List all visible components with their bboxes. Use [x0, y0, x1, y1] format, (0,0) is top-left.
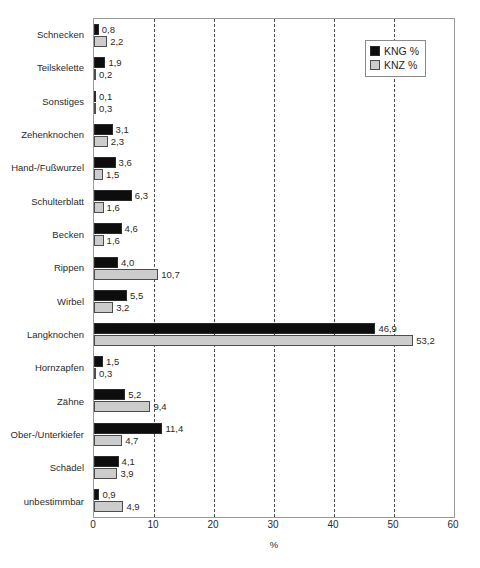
- x-tick-label-40: 40: [327, 519, 338, 530]
- bar: [94, 257, 118, 268]
- bar-line: 1,6: [94, 202, 454, 213]
- category-label: unbestimmbar: [24, 496, 84, 507]
- category-label: Schulterblatt: [31, 196, 84, 207]
- bar: [94, 91, 96, 102]
- bar: [94, 335, 413, 346]
- bar: [94, 157, 116, 168]
- category-label-cell: Schnecken: [0, 18, 89, 51]
- category-label-cell: Rippen: [0, 251, 89, 284]
- bar: [94, 269, 158, 280]
- legend: KNG %KNZ %: [365, 40, 426, 77]
- category-label: Ober-/Unterkiefer: [11, 429, 84, 440]
- bar-chart: SchneckenTeilskeletteSonstigesZehenknoch…: [0, 0, 480, 568]
- x-tick-label-30: 30: [267, 519, 278, 530]
- bar-line: 0,3: [94, 103, 454, 114]
- bar-line: 1,6: [94, 235, 454, 246]
- bar-value-label: 6,3: [135, 190, 148, 201]
- category-label-cell: Schädel: [0, 451, 89, 484]
- bar-group: 4,010,7: [94, 251, 454, 284]
- category-label-cell: Zähne: [0, 385, 89, 418]
- bar-value-label: 1,6: [107, 202, 120, 213]
- category-label-cell: Langknochen: [0, 318, 89, 351]
- category-label: Hornzapfen: [35, 362, 84, 373]
- bar-line: 3,1: [94, 124, 454, 135]
- category-label-cell: Teilskelette: [0, 51, 89, 84]
- bar-group: 4,13,9: [94, 451, 454, 484]
- bar: [94, 501, 123, 512]
- bar-value-label: 4,0: [121, 257, 134, 268]
- category-label-cell: Ober-/Unterkiefer: [0, 418, 89, 451]
- category-label-cell: Hornzapfen: [0, 351, 89, 384]
- category-label-cell: Sonstiges: [0, 85, 89, 118]
- category-label-cell: Hand-/Fußwurzel: [0, 151, 89, 184]
- x-tick-label-50: 50: [387, 519, 398, 530]
- bar-line: 3,9: [94, 468, 454, 479]
- bar-value-label: 0,3: [99, 103, 112, 114]
- x-axis-title: %: [93, 539, 455, 550]
- bar: [94, 136, 108, 147]
- bar-value-label: 3,1: [116, 124, 129, 135]
- bar: [94, 223, 122, 234]
- bar-value-label: 9,4: [153, 401, 166, 412]
- category-label: Zehenknochen: [21, 129, 84, 140]
- plot-area: 0,82,21,90,20,10,33,12,33,61,56,31,64,61…: [93, 18, 455, 518]
- bar-rows: 0,82,21,90,20,10,33,12,33,61,56,31,64,61…: [94, 19, 454, 517]
- bar-group: 3,12,3: [94, 119, 454, 152]
- x-tick-label-0: 0: [90, 519, 96, 530]
- x-tick-label-60: 60: [447, 519, 458, 530]
- bar-line: 1,5: [94, 169, 454, 180]
- bar-value-label: 53,2: [416, 335, 435, 346]
- legend-swatch-kng: [370, 46, 380, 56]
- bar: [94, 302, 113, 313]
- bar-line: 5,5: [94, 290, 454, 301]
- bar-value-label: 3,2: [116, 302, 129, 313]
- bar-line: 0,3: [94, 368, 454, 379]
- category-label: Schädel: [50, 462, 84, 473]
- bar-group: 4,61,6: [94, 218, 454, 251]
- category-label: Schnecken: [37, 29, 84, 40]
- bar-value-label: 2,2: [110, 36, 123, 47]
- bar: [94, 124, 113, 135]
- bar-value-label: 4,9: [126, 501, 139, 512]
- bar-line: 10,7: [94, 269, 454, 280]
- bar-line: 4,9: [94, 501, 454, 512]
- category-label: Langknochen: [27, 329, 84, 340]
- bar: [94, 24, 99, 35]
- bar-value-label: 0,1: [99, 91, 112, 102]
- bar: [94, 36, 107, 47]
- bar-group: 5,53,2: [94, 285, 454, 318]
- bar-value-label: 4,7: [125, 435, 138, 446]
- bar-line: 0,8: [94, 24, 454, 35]
- bar: [94, 435, 122, 446]
- bar: [94, 468, 117, 479]
- bar-value-label: 0,3: [99, 368, 112, 379]
- bar: [94, 169, 103, 180]
- bar-line: 5,2: [94, 389, 454, 400]
- bar-value-label: 4,1: [122, 456, 135, 467]
- legend-item: KNZ %: [370, 58, 419, 72]
- category-label: Zähne: [57, 396, 84, 407]
- bar-value-label: 1,5: [106, 169, 119, 180]
- bar-line: 53,2: [94, 335, 454, 346]
- bar: [94, 368, 96, 379]
- category-label: Becken: [52, 229, 84, 240]
- bar: [94, 103, 96, 114]
- bar-value-label: 2,3: [111, 136, 124, 147]
- bar-line: 0,9: [94, 489, 454, 500]
- bar-value-label: 3,9: [120, 468, 133, 479]
- category-label: Teilskelette: [37, 62, 84, 73]
- bar: [94, 323, 375, 334]
- category-label-cell: Zehenknochen: [0, 118, 89, 151]
- category-label: Hand-/Fußwurzel: [11, 162, 84, 173]
- bar-line: 6,3: [94, 190, 454, 201]
- bar-value-label: 0,2: [99, 69, 112, 80]
- bar-line: 2,3: [94, 136, 454, 147]
- bar: [94, 401, 150, 412]
- bar-group: 5,29,4: [94, 384, 454, 417]
- bar-value-label: 3,6: [119, 157, 132, 168]
- category-label-cell: Becken: [0, 218, 89, 251]
- legend-swatch-knz: [370, 60, 380, 70]
- bar: [94, 57, 105, 68]
- bar-value-label: 0,9: [102, 489, 115, 500]
- bar-group: 0,10,3: [94, 85, 454, 118]
